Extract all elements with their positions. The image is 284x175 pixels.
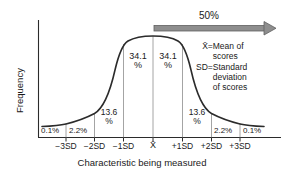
arrow-percent-label: 50% [199,11,219,22]
arrow-shaft [154,26,265,32]
region-label-left-mean-unit: % [134,60,142,70]
region-label-left-1sd-unit: % [105,116,113,126]
legend-text-sd-line3: of scores [213,82,248,92]
legend: X̄ = Mean of scores SD = Standard deviat… [196,41,247,93]
x-axis-title: Characteristic being measured [0,157,284,168]
legend-spacer-1 [196,51,208,61]
normal-distribution-figure: Frequency Characteristic being measured … [0,0,284,175]
legend-row-mean-cont: scores [196,51,247,61]
legend-row-mean: X̄ = Mean of [196,41,247,51]
legend-text-mean-line2: scores [213,51,248,61]
region-label-left-2sd: 2.2% [69,127,87,135]
region-label-left-tail: 0.1% [41,127,59,135]
legend-symbol-sd: SD [196,62,208,72]
tick-label-pos3sd: +3SD [222,142,258,151]
legend-row-sd-cont1: deviation [196,72,247,82]
region-label-right-mean-unit: % [164,60,172,70]
arrow-head [264,22,276,36]
region-label-right-tail: 0.1% [243,127,261,135]
region-label-right-2sd: 2.2% [214,127,232,135]
y-axis-title: Frequency [14,68,25,113]
legend-symbol-mean: X̄ [196,41,208,51]
tick-label-neg1sd: −1SD [106,142,142,151]
legend-text-mean-line1: Mean of [213,41,248,51]
legend-spacer-3 [196,72,208,82]
fifty-percent-arrow [154,22,276,36]
legend-text-sd-line1: Standard [213,62,248,72]
region-label-right-1sd-unit: % [193,116,201,126]
legend-row-sd: SD = Standard [196,62,247,72]
legend-text-sd-line2: deviation [213,72,248,82]
legend-spacer-5 [196,82,208,92]
legend-row-sd-cont2: of scores [196,82,247,92]
tick-label-mean: X̄ [143,141,163,150]
